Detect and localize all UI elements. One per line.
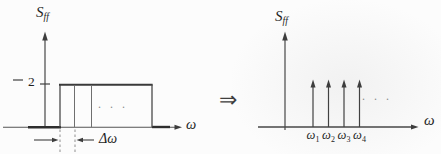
impulse-4-head <box>357 80 362 88</box>
delta-omega-measure <box>34 130 94 153</box>
right-plot-axes <box>258 32 419 131</box>
figure-canvas: Sff 2 . . . Δω ω ⇒ Sff ω1 ω2 ω3 ω4 . . .… <box>0 0 441 154</box>
omega4-base: ω <box>353 128 362 142</box>
right-x-axis-label: ω <box>424 113 435 128</box>
left-y-tick-label: 2 <box>28 75 35 89</box>
diagram-strokes <box>0 0 441 154</box>
right-y-axis-label: Sff <box>275 9 288 26</box>
measure-arrow-right-head <box>52 138 59 143</box>
delta-omega-label: Δω <box>99 132 117 146</box>
omega2-base: ω <box>322 128 331 142</box>
right-x-axis-arrowhead <box>411 125 419 130</box>
impulse-label-omega4: ω4 <box>351 129 369 144</box>
left-y-axis-label-base: S <box>36 4 44 20</box>
left-y-axis-label-sub: ff <box>44 11 49 22</box>
impulse-3-head <box>342 80 347 88</box>
left-x-axis-label: ω <box>186 117 196 132</box>
omega4-sub: 4 <box>362 135 366 144</box>
implies-symbol: ⇒ <box>219 89 237 111</box>
left-band-ellipsis: . . . <box>98 98 128 110</box>
right-ellipsis: . . . <box>362 90 392 102</box>
left-x-axis-arrowhead <box>175 125 183 130</box>
impulse-2-head <box>326 80 331 88</box>
impulse-arrows <box>311 80 363 128</box>
right-y-axis-arrowhead <box>282 32 288 41</box>
measure-arrow-left-head <box>77 138 84 143</box>
impulse-1-head <box>311 80 316 88</box>
left-y-axis-label: Sff <box>36 5 49 22</box>
right-y-axis-label-sub: ff <box>283 15 288 26</box>
left-y-axis-arrowhead <box>42 32 48 41</box>
right-y-axis-label-base: S <box>275 8 283 24</box>
